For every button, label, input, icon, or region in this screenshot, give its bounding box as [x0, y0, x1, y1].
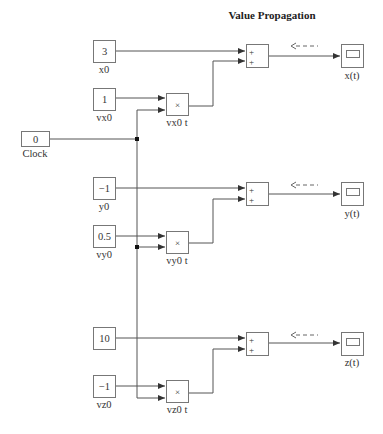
- vy0t-label: vy0 t: [147, 255, 207, 266]
- scope-icon: [346, 338, 360, 346]
- vy0-label: vy0: [74, 249, 134, 260]
- multiply-icon: ×: [175, 100, 180, 110]
- vx0t-label: vx0 t: [147, 117, 207, 128]
- vz0-constant-block[interactable]: −1: [93, 375, 116, 398]
- clock-value: 0: [33, 134, 38, 145]
- vx0-constant-block[interactable]: 1: [93, 88, 116, 111]
- z-sum-block[interactable]: + +: [246, 332, 269, 356]
- y-sum-block[interactable]: + +: [246, 182, 269, 206]
- x-scope-block[interactable]: [341, 44, 364, 68]
- plus-sign: +: [249, 58, 254, 67]
- y0-value: −1: [99, 183, 110, 194]
- z0-constant-block[interactable]: 10: [93, 327, 116, 350]
- vz0-multiply-block[interactable]: ×: [166, 380, 189, 403]
- vy0-multiply-block[interactable]: ×: [166, 231, 189, 254]
- y0-label: y0: [74, 201, 134, 212]
- multiply-icon: ×: [175, 387, 180, 397]
- x-scope-label: x(t): [322, 70, 382, 81]
- vy0-value: 0.5: [98, 231, 111, 242]
- x0-label: x0: [74, 64, 134, 75]
- plus-sign: +: [249, 48, 254, 57]
- x0-value: 3: [102, 46, 107, 57]
- plus-sign: +: [249, 196, 254, 205]
- z-scope-label: z(t): [322, 357, 382, 368]
- x0-constant-block[interactable]: 3: [93, 40, 116, 63]
- vy0-constant-block[interactable]: 0.5: [93, 225, 116, 248]
- z-scope-block[interactable]: [341, 332, 364, 356]
- vz0-label: vz0: [74, 399, 134, 410]
- vx0-value: 1: [102, 94, 107, 105]
- plus-sign: +: [249, 186, 254, 195]
- clock-label: Clock: [5, 148, 65, 159]
- plus-sign: +: [249, 346, 254, 355]
- y-scope-label: y(t): [322, 208, 382, 219]
- plus-sign: +: [249, 336, 254, 345]
- x-sum-block[interactable]: + +: [246, 44, 269, 68]
- multiply-icon: ×: [175, 238, 180, 248]
- vx0-multiply-block[interactable]: ×: [166, 93, 189, 116]
- vz0-value: −1: [99, 381, 110, 392]
- scope-icon: [346, 50, 360, 58]
- z0-value: 10: [99, 333, 110, 344]
- y-scope-block[interactable]: [341, 182, 364, 206]
- y0-constant-block[interactable]: −1: [93, 177, 116, 200]
- vx0-label: vx0: [74, 112, 134, 123]
- scope-icon: [346, 188, 360, 196]
- clock-block[interactable]: 0: [21, 131, 50, 147]
- vz0t-label: vz0 t: [147, 404, 207, 415]
